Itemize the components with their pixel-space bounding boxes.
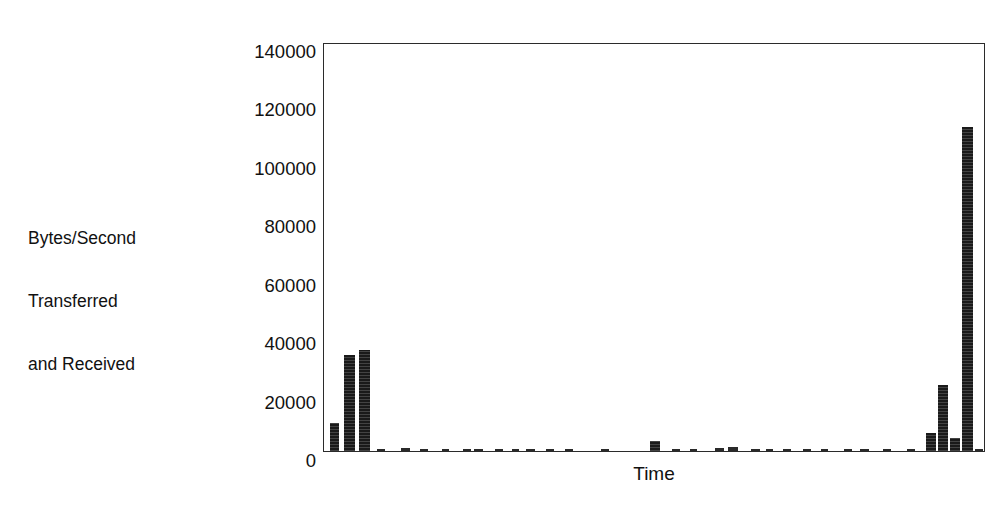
bar: [783, 449, 792, 451]
bar: [601, 449, 609, 451]
bar: [690, 449, 697, 451]
y-axis-tick-label: 60000: [265, 277, 316, 296]
bar: [715, 448, 724, 451]
bar: [860, 449, 869, 451]
y-axis-tick-label: 0: [306, 452, 316, 471]
bar: [962, 127, 973, 451]
plot-area: [323, 43, 985, 452]
bar-series: [324, 44, 984, 451]
bar: [821, 449, 828, 451]
bar: [728, 447, 738, 451]
bar: [650, 441, 660, 451]
bar: [803, 449, 811, 451]
bar: [926, 433, 936, 451]
bar: [344, 355, 355, 451]
bar: [546, 449, 553, 451]
y-axis-tick-label: 20000: [265, 394, 316, 413]
bar: [672, 449, 680, 451]
bar: [950, 438, 960, 451]
bar: [330, 423, 339, 451]
bar: [495, 449, 503, 451]
bar: [844, 449, 852, 451]
chart-figure: Bytes/Second Transferred and Received 02…: [0, 0, 1006, 516]
bar: [420, 449, 428, 451]
y-axis-tick-label: 40000: [265, 335, 316, 354]
bar: [359, 350, 370, 451]
bar: [377, 449, 385, 451]
bar: [907, 449, 916, 451]
bar: [526, 449, 535, 451]
bar: [442, 449, 449, 451]
y-axis-tick-label: 140000: [254, 43, 316, 62]
bar: [766, 449, 773, 451]
bar: [512, 449, 519, 451]
y-axis-tick-label: 100000: [254, 160, 316, 179]
bar: [975, 449, 982, 451]
bar: [938, 385, 949, 451]
y-axis-tick-label: 120000: [254, 101, 316, 120]
x-axis-label: Time: [323, 463, 985, 485]
bar: [565, 449, 573, 451]
y-axis-tick-label: 80000: [265, 218, 316, 237]
bar: [474, 449, 483, 451]
bar: [463, 449, 471, 451]
bar: [751, 449, 760, 451]
bar: [401, 448, 410, 451]
bar: [883, 449, 891, 451]
